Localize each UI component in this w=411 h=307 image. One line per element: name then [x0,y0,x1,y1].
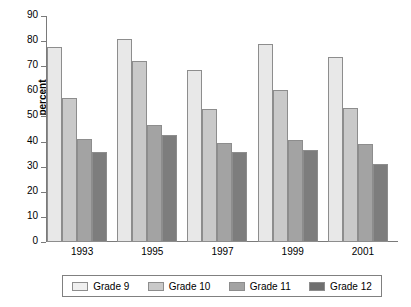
bar-1995-grade-9 [117,39,132,242]
legend-swatch-icon [309,282,325,291]
y-tick-label: 50 [27,109,38,121]
bar-1993-grade-9 [47,47,62,242]
x-axis-label-1997: 1997 [187,246,257,257]
bar-1999-grade-10 [273,90,288,242]
y-tick: 10 [4,217,46,218]
y-tick-label: 20 [27,185,38,197]
legend-item-grade-9: Grade 9 [72,281,129,292]
bar-1997-grade-10 [202,109,217,242]
bar-group-1997 [187,16,257,242]
bar-group-1993 [47,16,117,242]
y-tick: 90 [4,16,46,17]
legend-swatch-icon [229,282,245,291]
x-axis-label-1995: 1995 [117,246,187,257]
bar-2001-grade-10 [343,108,358,242]
bar-1997-grade-12 [232,152,247,242]
bar-1993-grade-12 [92,152,107,242]
y-tick-mark [41,41,46,42]
y-tick: 30 [4,167,46,168]
y-tick-label: 90 [27,9,38,21]
bar-group-1995 [117,16,187,242]
y-tick-label: 60 [27,84,38,96]
y-tick-mark [41,116,46,117]
legend-label: Grade 9 [93,281,129,292]
legend-swatch-icon [148,282,164,291]
bar-2001-grade-12 [373,164,388,242]
bar-1995-grade-12 [162,135,177,242]
y-tick-label: 10 [27,210,38,222]
y-tick: 50 [4,116,46,117]
y-tick-mark [41,217,46,218]
y-tick-mark [41,192,46,193]
bar-1995-grade-11 [147,125,162,242]
bar-2001-grade-9 [328,57,343,242]
x-axis-labels: 19931995199719992001 [47,246,398,257]
bar-groups [47,16,398,242]
chart-legend: Grade 9Grade 10Grade 11Grade 12 [62,275,382,297]
legend-label: Grade 12 [330,281,372,292]
bar-1997-grade-11 [217,143,232,242]
legend-item-grade-10: Grade 10 [148,281,211,292]
bar-1997-grade-9 [187,70,202,242]
bar-2001-grade-11 [358,144,373,242]
bar-group-1999 [258,16,328,242]
x-axis-label-1999: 1999 [258,246,328,257]
legend-label: Grade 11 [250,281,291,292]
legend-swatch-icon [72,282,88,291]
y-tick-mark [41,242,46,243]
y-tick-label: 40 [27,135,38,147]
y-tick-label: 30 [27,160,38,172]
y-tick: 20 [4,192,46,193]
x-axis-label-2001: 2001 [328,246,398,257]
plot-area: 0102030405060708090 [46,16,398,242]
bar-1999-grade-12 [303,150,318,242]
bar-chart: percent 0102030405060708090 199319951997… [0,0,411,307]
y-tick: 60 [4,91,46,92]
bar-1995-grade-10 [132,61,147,242]
y-tick-mark [41,91,46,92]
bar-group-2001 [328,16,398,242]
bar-1999-grade-11 [288,140,303,242]
y-tick-mark [41,167,46,168]
bar-1993-grade-10 [62,98,77,242]
bar-1999-grade-9 [258,44,273,242]
y-tick-mark [41,142,46,143]
legend-item-grade-11: Grade 11 [229,281,291,292]
legend-label: Grade 10 [169,281,211,292]
y-tick-label: 80 [27,34,38,46]
y-tick-mark [41,66,46,67]
y-tick-label: 0 [32,235,38,247]
y-tick: 0 [4,242,46,243]
y-tick-mark [41,16,46,17]
y-tick: 80 [4,41,46,42]
y-tick: 70 [4,66,46,67]
x-axis-label-1993: 1993 [47,246,117,257]
y-tick: 40 [4,142,46,143]
bar-1993-grade-11 [77,139,92,242]
legend-item-grade-12: Grade 12 [309,281,372,292]
y-tick-label: 70 [27,59,38,71]
